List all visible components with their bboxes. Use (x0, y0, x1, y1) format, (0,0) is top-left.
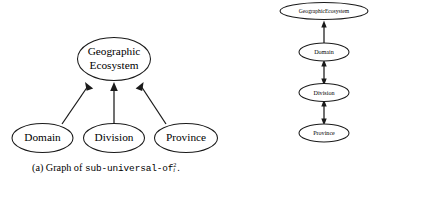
graph-b: GeographicEcosystem Domain Division Prov… (272, 0, 425, 160)
node-b-domain-label: Domain (314, 49, 334, 55)
graph-a-nodes: Geographic Ecosystem Domain Division Pro… (12, 38, 218, 153)
caption-a-index: (a) (32, 162, 43, 173)
caption-a: (a) Graph of sub-universal-of2i. (32, 161, 180, 176)
node-domain: Domain (12, 124, 73, 153)
edge-domain-to-geographic-ecosystem (62, 86, 88, 124)
arrowhead-division-to-geographic-ecosystem (110, 82, 118, 91)
node-b-geographic-ecosystem-label: GeographicEcosystem (299, 8, 350, 14)
node-b-division-label: Division (314, 90, 335, 96)
figure-pair: Geographic Ecosystem Domain Division Pro… (0, 0, 425, 212)
node-b-domain: Domain (299, 43, 349, 61)
edge-province-to-geographic-ecosystem (141, 86, 166, 124)
node-b-geographic-ecosystem: GeographicEcosystem (280, 3, 368, 20)
arrowhead-province-to-geographic-ecosystem (136, 82, 144, 91)
figure-panel-a: Geographic Ecosystem Domain Division Pro… (0, 0, 260, 212)
node-geographic-ecosystem: Geographic Ecosystem (78, 38, 151, 81)
arrowhead-b-domain-to-geographic-ecosystem-up (321, 21, 326, 28)
node-division: Division (84, 124, 145, 153)
node-geographic-ecosystem-label-line1: Geographic (88, 45, 141, 57)
node-province: Province (155, 124, 218, 153)
graph-a: Geographic Ecosystem Domain Division Pro… (0, 0, 260, 160)
node-domain-label: Domain (24, 131, 61, 143)
node-division-label: Division (95, 131, 134, 143)
node-geographic-ecosystem-label-line2: Ecosystem (90, 59, 139, 71)
caption-a-relation: sub-universal-of (85, 163, 173, 174)
node-b-division: Division (299, 84, 349, 102)
caption-a-indices: 2i (173, 161, 177, 171)
figure-panel-b: GeographicEcosystem Domain Division Prov… (272, 0, 425, 212)
node-b-province-label: Province (313, 130, 335, 136)
graph-b-edges (321, 21, 326, 126)
caption-a-terminator: . (177, 162, 180, 173)
node-b-province: Province (299, 124, 349, 142)
graph-a-edges (62, 82, 166, 124)
caption-a-prefix: Graph of (46, 162, 83, 173)
caption-a-subscript: i (173, 163, 175, 176)
node-province-label: Province (166, 131, 206, 143)
